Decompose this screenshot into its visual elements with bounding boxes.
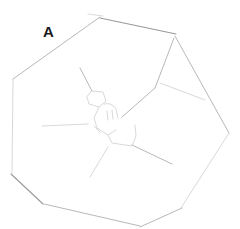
center-structure (87, 91, 136, 146)
outer-outline (11, 14, 229, 227)
flower-sketch (0, 0, 240, 229)
fold-lines (42, 38, 205, 177)
